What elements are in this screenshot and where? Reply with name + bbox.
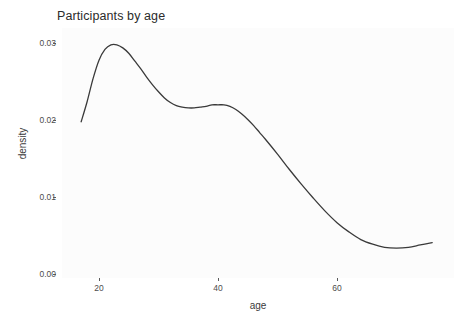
density-curve — [81, 44, 432, 248]
density-plot-figure: Participants by age density 0.03 0.02 0.… — [0, 0, 468, 332]
density-curve-svg — [0, 0, 468, 332]
